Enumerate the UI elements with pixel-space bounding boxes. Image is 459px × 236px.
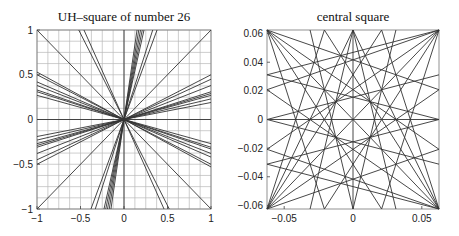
right-chart-plot: −0.0500.05−0.06−0.04−0.0200.020.040.06 bbox=[0, 0, 459, 236]
y-tick-label: 0.04 bbox=[244, 57, 264, 68]
y-tick-label: −0.02 bbox=[238, 143, 264, 154]
x-tick-label: −0.05 bbox=[272, 213, 298, 224]
data-lines bbox=[267, 30, 439, 209]
x-tick-label: 0.05 bbox=[412, 213, 432, 224]
y-tick-label: 0 bbox=[257, 114, 263, 125]
y-tick-label: 0.06 bbox=[244, 28, 264, 39]
y-tick-label: 0.02 bbox=[244, 85, 264, 96]
right-chart-panel: central square −0.0500.05−0.06−0.04−0.02… bbox=[0, 0, 459, 236]
y-tick-label: −0.04 bbox=[238, 171, 264, 182]
y-tick-label: −0.06 bbox=[238, 200, 264, 211]
x-tick-label: 0 bbox=[350, 213, 356, 224]
